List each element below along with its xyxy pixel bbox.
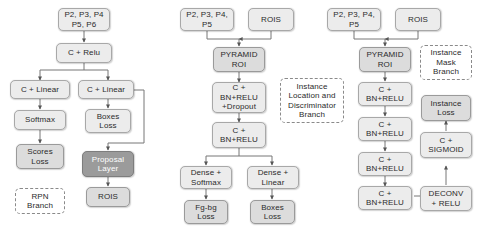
node-loc-fgbg-loss[interactable]: Fg-bg Loss xyxy=(184,200,228,224)
node-mask-c-bn-relu-2[interactable]: C + BN+RELU xyxy=(358,117,412,141)
node-loc-rois-input[interactable]: ROIS xyxy=(248,8,294,31)
node-rpn-c-relu[interactable]: C + Relu xyxy=(56,43,112,63)
node-loc-pyramid-roi[interactable]: PYRAMID ROI xyxy=(213,47,265,72)
node-rpn-boxes-loss[interactable]: Boxes Loss xyxy=(85,109,131,133)
branch-label-instance-location: Instance Location and Discriminator Bran… xyxy=(280,78,344,123)
node-mask-c-bn-relu-1[interactable]: C + BN+RELU xyxy=(358,82,412,106)
node-rpn-c-linear-cls[interactable]: C + Linear xyxy=(10,80,70,99)
node-mask-rois-input[interactable]: ROIS xyxy=(395,8,441,31)
node-rpn-c-linear-reg[interactable]: C + Linear xyxy=(78,80,134,99)
node-mask-c-sigmoid[interactable]: C + SIGMOID xyxy=(420,132,472,158)
branch-label-instance-mask: Instance Mask Branch xyxy=(420,45,472,80)
node-loc-c-bn-relu[interactable]: C + BN+RELU xyxy=(212,122,266,148)
node-loc-inputs[interactable]: P2, P3, P4, P5 xyxy=(180,8,234,31)
node-rpn-inputs[interactable]: P2, P3, P4 P5, P6 xyxy=(58,8,110,31)
node-mask-inputs[interactable]: P2, P3, P4, P5 xyxy=(327,8,381,31)
node-rpn-rois-output[interactable]: ROIS xyxy=(86,187,130,207)
node-rpn-scores-loss[interactable]: Scores Loss xyxy=(16,144,64,169)
node-proposal-layer[interactable]: Proposal Layer xyxy=(82,151,134,177)
node-loc-c-bn-relu-dropout[interactable]: C + BN+RELU +Dropout xyxy=(212,82,266,113)
node-loc-dense-linear[interactable]: Dense + Linear xyxy=(247,166,299,189)
node-mask-pyramid-roi[interactable]: PYRAMID ROI xyxy=(359,47,411,72)
branch-label-rpn: RPN Branch xyxy=(15,188,65,214)
diagram-canvas: P2, P3, P4 P5, P6 C + Relu C + Linear So… xyxy=(0,0,482,236)
node-loc-dense-softmax[interactable]: Dense + Softmax xyxy=(180,166,232,189)
node-mask-deconv-relu[interactable]: DECONV + RELU xyxy=(420,186,472,211)
node-loc-boxes-loss[interactable]: Boxes Loss xyxy=(250,200,295,224)
node-rpn-softmax[interactable]: Softmax xyxy=(14,110,66,130)
node-mask-c-bn-relu-4[interactable]: C + BN+RELU xyxy=(358,186,412,210)
node-mask-c-bn-relu-3[interactable]: C + BN+RELU xyxy=(358,152,412,176)
node-mask-instance-loss[interactable]: Instance Loss xyxy=(421,95,471,121)
